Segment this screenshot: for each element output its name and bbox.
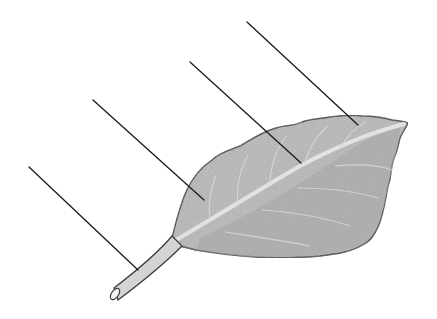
pointer-line-petiole: [29, 167, 138, 270]
leaf-diagram: [0, 0, 437, 319]
leaf-blade: [172, 115, 408, 258]
pointer-line-blade-lower: [93, 100, 204, 200]
leaf-diagram-canvas: [0, 0, 437, 319]
petiole-shape: [114, 236, 182, 300]
petiole: [108, 236, 182, 301]
pointer-line-blade-tip: [247, 22, 358, 125]
